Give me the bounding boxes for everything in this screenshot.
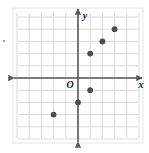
- data-point: [87, 51, 93, 57]
- data-point: [87, 87, 93, 93]
- origin-label: O: [66, 79, 73, 90]
- coordinate-plane-figure: xyO: [0, 0, 149, 153]
- list-bullet-marker: [3, 40, 5, 42]
- y-axis-label: y: [82, 10, 88, 21]
- scatter-plot-svg: xyO: [0, 0, 149, 153]
- data-point: [51, 112, 57, 118]
- data-point: [112, 26, 118, 32]
- data-point: [100, 39, 106, 45]
- data-point: [75, 100, 81, 106]
- x-axis-label: x: [138, 79, 144, 90]
